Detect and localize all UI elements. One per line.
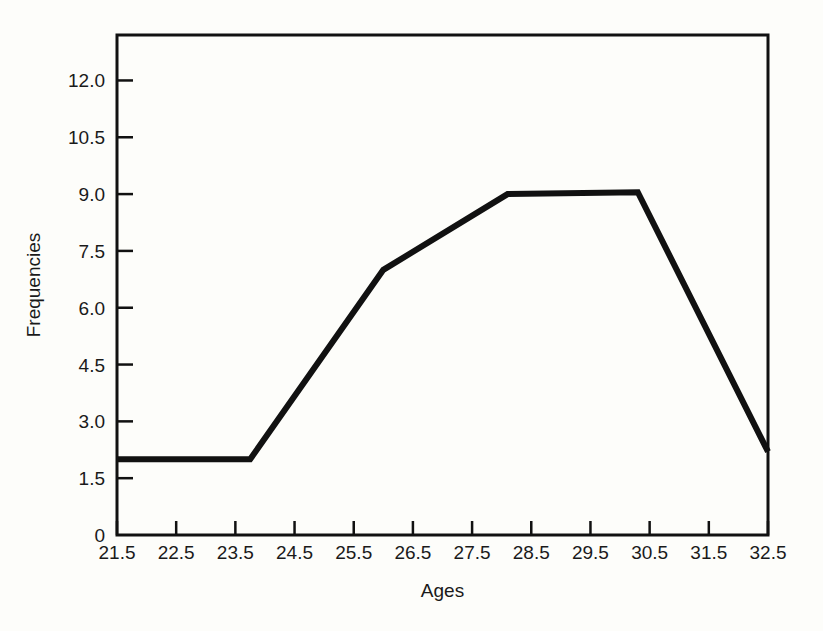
y-tick-label: 7.5 xyxy=(79,241,105,262)
frequency-polygon-chart: 21.522.523.524.525.526.527.528.529.530.5… xyxy=(0,0,823,631)
x-tick-label: 23.5 xyxy=(217,542,254,563)
x-tick-label: 30.5 xyxy=(631,542,668,563)
x-axis-title: Ages xyxy=(421,580,464,601)
x-tick-label: 32.5 xyxy=(750,542,787,563)
y-tick-label: 10.5 xyxy=(68,127,105,148)
x-tick-label: 28.5 xyxy=(513,542,550,563)
y-tick-label: 12.0 xyxy=(68,70,105,91)
x-tick-label: 29.5 xyxy=(572,542,609,563)
y-tick-label: 9.0 xyxy=(79,184,105,205)
y-tick-label: 6.0 xyxy=(79,298,105,319)
y-tick-label: 4.5 xyxy=(79,355,105,376)
y-axis-title: Frequencies xyxy=(23,233,44,338)
chart-page: 21.522.523.524.525.526.527.528.529.530.5… xyxy=(0,0,823,631)
x-tick-label: 25.5 xyxy=(335,542,372,563)
y-tick-label: 3.0 xyxy=(79,411,105,432)
x-tick-label: 27.5 xyxy=(454,542,491,563)
y-tick-label: 1.5 xyxy=(79,468,105,489)
y-tick-label: 0 xyxy=(94,525,105,546)
x-tick-label: 31.5 xyxy=(690,542,727,563)
x-tick-label: 22.5 xyxy=(158,542,195,563)
x-tick-label: 26.5 xyxy=(394,542,431,563)
x-tick-label: 24.5 xyxy=(276,542,313,563)
